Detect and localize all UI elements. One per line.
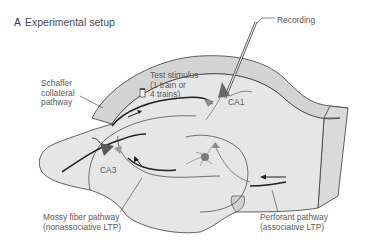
mossy-line-2: (nonassociative LTP) [43,223,121,233]
mossy-fiber-label: Mossy fiber pathway (nonassociative LTP) [43,213,121,232]
perforant-pathway-label: Perforant pathway (associative LTP) [260,213,328,232]
stimulating-electrode-icon [140,89,145,97]
ca3-label: CA3 [100,166,116,176]
test-stimulus-label: Test stimulus (1 train or 4 trains) [150,71,198,100]
recording-leader-line [257,18,275,23]
perforant-line-2: (associative LTP) [260,223,328,233]
schaffer-leader-line [80,96,103,108]
schaffer-line-3: pathway [41,98,75,108]
hippocampus-experimental-setup-figure: AExperimental setup [0,0,369,251]
ca1-label: CA1 [228,98,244,108]
schaffer-collateral-label: Schaffer collateral pathway [41,79,75,108]
test-stimulus-line-3: 4 trains) [150,90,198,100]
recording-label: Recording [277,16,315,26]
granule-cell-icon [201,153,209,161]
